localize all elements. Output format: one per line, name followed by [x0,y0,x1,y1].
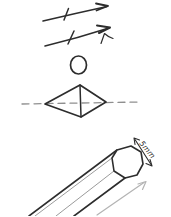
prism-shape [29,146,143,216]
diamond-outline [45,85,106,117]
prism-top-edge [29,150,117,216]
direction-arrow-shaft [97,183,144,216]
lower-arrow-icon [45,26,113,47]
sketch-canvas: 5mm [0,0,171,216]
octagon-end-face [112,146,143,178]
upper-arrow-icon [43,4,108,22]
upper-arrow-shaft [43,7,107,22]
lower-arrow-shaft [45,28,109,46]
lower-arrow-tick [68,31,74,44]
prism-bottom-edge [74,178,125,216]
lower-arrow-hook [101,34,113,44]
ink-layer [22,4,152,217]
upper-arrow-tick [64,9,69,21]
hand-drawn-diagram: 5mm [0,0,171,216]
diamond-shape [45,85,106,117]
diamond-internal-edge [80,85,81,117]
prism-inner-edge-1 [35,158,112,216]
circle-shape [71,56,87,74]
direction-arrow-icon [97,182,146,216]
